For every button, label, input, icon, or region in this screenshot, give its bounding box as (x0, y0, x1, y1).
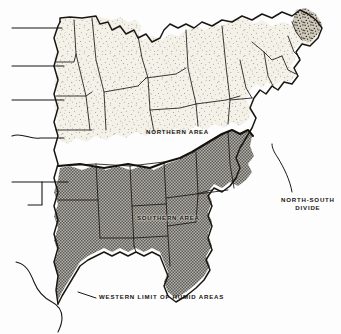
label-southern-area: SOUTHERN AREA (137, 214, 200, 222)
label-divide-line2: DIVIDE (281, 204, 335, 212)
leader-line-divide (272, 144, 292, 192)
map-graphic (0, 0, 341, 334)
label-divide-line1: NORTH-SOUTH (281, 196, 335, 204)
label-north-south-divide: NORTH-SOUTH DIVIDE (281, 196, 335, 212)
western-coast-curve (16, 262, 62, 332)
map-figure: NORTHERN AREA SOUTHERN AREA NORTH-SOUTH … (0, 0, 341, 334)
leader-line-western-limit (78, 292, 96, 298)
label-northern-area: NORTHERN AREA (146, 128, 209, 136)
label-western-limit: WESTERN LIMIT OF HUMID AREAS (99, 293, 224, 301)
